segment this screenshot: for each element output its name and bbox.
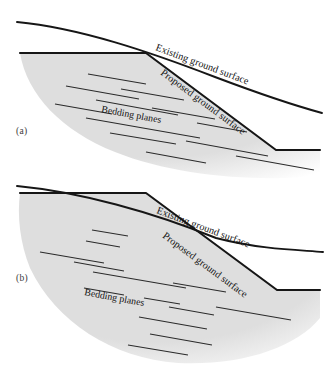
figure-canvas: Existing ground surfaceProposed ground s…: [0, 0, 336, 377]
panel-label-a: (a): [16, 126, 27, 137]
slope-panel-a: Existing ground surfaceProposed ground s…: [16, 22, 322, 178]
panels-group: Existing ground surfaceProposed ground s…: [16, 22, 323, 363]
slope-panel-b: Existing ground surfaceProposed ground s…: [16, 186, 323, 363]
slope-stability-figure: Existing ground surfaceProposed ground s…: [0, 0, 336, 377]
panel-label-b: (b): [16, 273, 28, 284]
